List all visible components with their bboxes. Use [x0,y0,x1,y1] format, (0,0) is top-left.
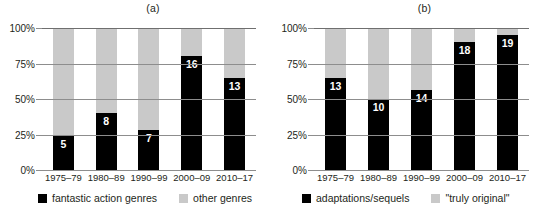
bar-segment-secondary [224,28,245,78]
y-tick-label-100: 100% [9,23,42,34]
y-tick-label-25: 25% [15,129,42,140]
legend-swatch-icon [431,194,440,203]
y-tick-label-50: 50% [287,94,314,105]
legend-item: "truly original" [431,192,509,204]
bar-segment-secondary [181,28,202,56]
bar-segment-primary: 16 [181,56,202,170]
bar-value-label: 18 [454,44,475,56]
bar-segment-secondary [138,28,159,130]
y-tick-label-75: 75% [15,58,42,69]
gridline-50 [314,99,529,100]
legend-item: fantastic action genres [38,192,157,204]
chart-panel-a: (a) 5871613 0%25%50%75%100% 1975–791980–… [0,0,266,218]
x-tick-label: 2010–17 [497,171,518,187]
bar-segment-secondary [325,28,346,78]
x-tick-label: 1990–99 [411,171,432,187]
bar-value-label: 13 [325,80,346,92]
bar-segment-primary: 5 [53,136,74,170]
gridline-50 [42,99,256,100]
bar-value-label: 19 [497,37,518,49]
x-tick-label: 2000–09 [454,171,475,187]
bar-segment-primary: 19 [497,35,518,170]
legend-item: adaptations/sequels [302,192,409,204]
legend-item: other genres [179,192,252,204]
panel-b-plot-area: 1310141819 0%25%50%75%100% [314,28,529,170]
x-tick-label: 1980–89 [96,171,117,187]
bar-segment-primary: 8 [96,113,117,170]
x-tick-label: 1975–79 [325,171,346,187]
bar-segment-secondary [454,28,475,42]
chart-panel-b: (b) 1310141819 0%25%50%75%100% 1975–7919… [266,0,539,218]
bar-segment-secondary [96,28,117,113]
legend-swatch-icon [302,194,311,203]
stacked-bar-figure: (a) 5871613 0%25%50%75%100% 1975–791980–… [0,0,539,218]
y-tick-label-75: 75% [287,58,314,69]
bar-value-label: 10 [368,101,389,113]
panel-a-plot-area: 5871613 0%25%50%75%100% [42,28,256,170]
panel-b-legend: adaptations/sequels"truly original" [302,192,509,204]
legend-label: other genres [193,192,252,204]
legend-label: adaptations/sequels [316,192,409,204]
bar-segment-primary: 13 [224,78,245,170]
y-tick-label-50: 50% [15,94,42,105]
panel-a-legend: fantastic action genresother genres [38,192,252,204]
legend-swatch-icon [38,194,47,203]
gridline-100 [314,28,529,29]
bar-segment-secondary [497,28,518,35]
y-tick-label-100: 100% [281,23,314,34]
bar-value-label: 5 [53,138,74,150]
y-tick-label-0: 0% [21,165,42,176]
y-tick-label-0: 0% [293,165,314,176]
bar-segment-primary: 13 [325,78,346,170]
y-tick-label-25: 25% [287,129,314,140]
gridline-100 [42,28,256,29]
bar-value-label: 8 [96,115,117,127]
legend-label: fantastic action genres [52,192,157,204]
panel-a-plot-wrap: 5871613 0%25%50%75%100% 1975–791980–8919… [0,0,266,218]
bar-segment-primary: 14 [411,90,432,170]
legend-label: "truly original" [445,192,509,204]
panel-b-x-axis: 1975–791980–891990–992000–092010–17 [314,171,529,187]
bar-segment-secondary [53,28,74,136]
bar-value-label: 13 [224,80,245,92]
x-tick-label: 2010–17 [224,171,245,187]
bar-segment-primary: 7 [138,130,159,170]
x-tick-label: 2000–09 [181,171,202,187]
bar-segment-primary: 18 [454,42,475,170]
gridline-75 [314,64,529,65]
x-tick-label: 1975–79 [53,171,74,187]
gridline-25 [42,135,256,136]
gridline-25 [314,135,529,136]
panel-b-plot-wrap: 1310141819 0%25%50%75%100% 1975–791980–8… [266,0,539,218]
panel-a-x-axis: 1975–791980–891990–992000–092010–17 [42,171,256,187]
gridline-75 [42,64,256,65]
legend-swatch-icon [179,194,188,203]
bar-segment-secondary [411,28,432,90]
x-tick-label: 1980–89 [368,171,389,187]
x-tick-label: 1990–99 [138,171,159,187]
